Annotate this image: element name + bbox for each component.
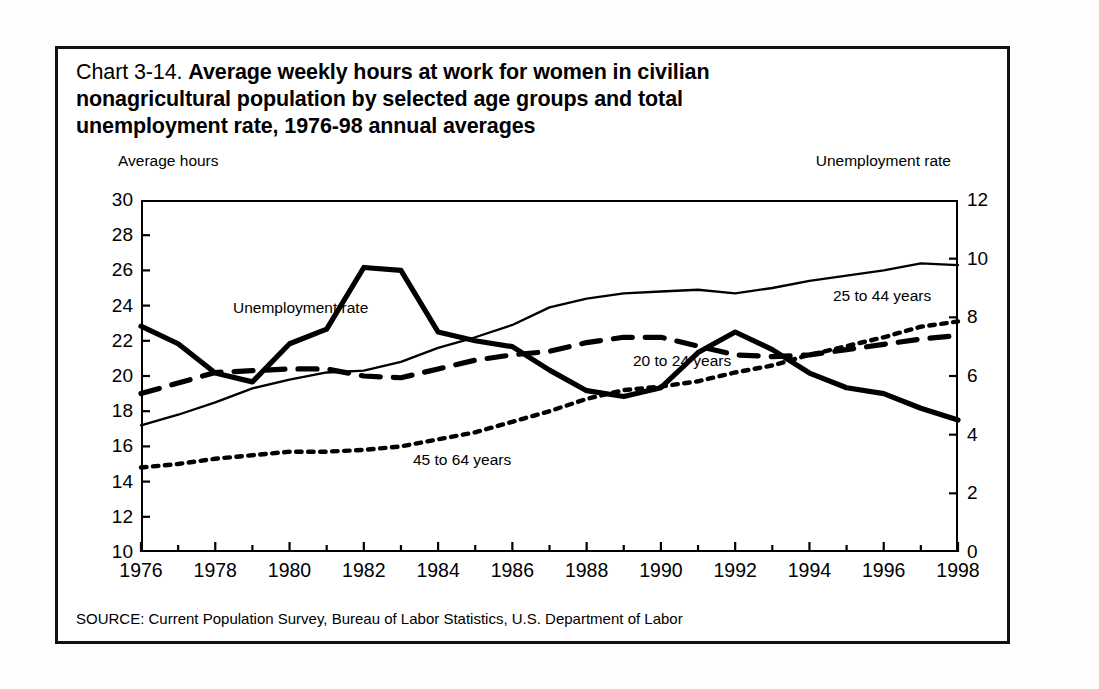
x-axis-tick-label: 1984 [416,559,459,582]
source-note: SOURCE: Current Population Survey, Burea… [76,610,683,627]
plot-area: 1012141618202224262830024681012197619781… [141,200,958,552]
chart-title-line-2: nonagricultural population by selected a… [76,86,981,113]
chart-number: Chart 3-14. [76,60,182,84]
y-axis-tick-label-left: 26 [112,259,133,281]
series-label-45-to-64-years: 45 to 64 years [413,451,511,469]
chart-title-block: Chart 3-14. Average weekly hours at work… [76,59,981,140]
y-axis-tick-label-left: 24 [112,295,133,317]
plot-lines [141,200,958,552]
x-axis-tick-label: 1998 [936,559,979,582]
series-label-unemployment-rate: Unemployment rate [233,299,368,317]
x-axis-tick-label: 1982 [342,559,385,582]
right-axis-title: Unemployment rate [816,152,951,170]
x-axis-tick-label: 1980 [268,559,311,582]
x-axis-tick-label: 1988 [565,559,608,582]
figure-frame: Chart 3-14. Average weekly hours at work… [55,46,1010,644]
y-axis-tick-label-left: 30 [112,189,133,211]
y-axis-tick-label-right: 6 [967,365,978,387]
y-axis-tick-label-left: 14 [112,471,133,493]
x-axis-tick-label: 1996 [862,559,905,582]
y-axis-tick-label-left: 18 [112,400,133,422]
y-axis-tick-label-right: 2 [967,482,978,504]
series-label-25-to-44-years: 25 to 44 years [833,287,931,305]
y-axis-tick-label-left: 28 [112,224,133,246]
chart-title-line-1: Chart 3-14. Average weekly hours at work… [76,59,981,86]
y-axis-tick-label-left: 12 [112,506,133,528]
y-axis-tick-label-left: 22 [112,330,133,352]
x-axis-tick-label: 1978 [194,559,237,582]
x-axis-tick-label: 1992 [713,559,756,582]
y-axis-tick-label-left: 16 [112,435,133,457]
y-axis-tick-label-right: 10 [967,248,988,270]
figure-page: Chart 3-14. Average weekly hours at work… [0,0,1099,689]
y-axis-tick-label-right: 8 [967,306,978,328]
x-axis-tick-label: 1986 [491,559,534,582]
y-axis-tick-label-left: 20 [112,365,133,387]
chart-title-main: Average weekly hours at work for women i… [188,60,709,84]
x-axis-tick-label: 1976 [119,559,162,582]
y-axis-tick-label-right: 4 [967,424,978,446]
chart-title-line-3: unemployment rate, 1976-98 annual averag… [76,113,981,140]
x-axis-tick-label: 1990 [639,559,682,582]
left-axis-title: Average hours [118,152,219,170]
x-axis-tick-label: 1994 [788,559,831,582]
y-axis-tick-label-right: 12 [967,189,988,211]
series-line-45-to-64-years [141,321,958,467]
series-label-20-to-24-years: 20 to 24 years [633,352,731,370]
